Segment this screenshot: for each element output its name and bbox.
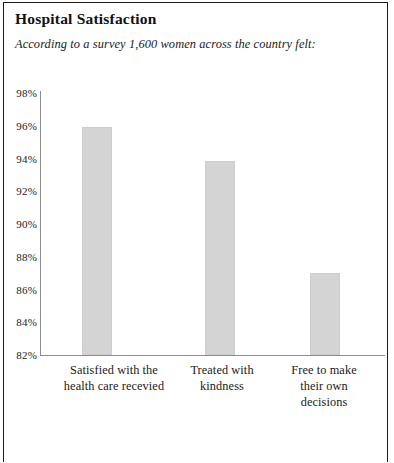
y-axis-tick-label: 94%	[7, 153, 37, 165]
y-axis-tick-label: 98%	[7, 87, 37, 99]
y-axis-tick-label: 82%	[7, 349, 37, 361]
category-label-line: decisions	[269, 394, 379, 410]
y-axis-tick-label: 84%	[7, 316, 37, 328]
x-axis-line	[40, 355, 385, 356]
y-axis-tick-labels: 98%96%94%92%90%88%86%84%82%	[4, 3, 37, 463]
x-axis-category-label: Free to maketheir owndecisions	[269, 362, 379, 411]
y-axis-tick-label: 92%	[7, 185, 37, 197]
category-label-line: kindness	[162, 378, 282, 394]
category-label-line: Treated with	[162, 362, 282, 378]
category-label-line: Free to make	[269, 362, 379, 378]
bar	[205, 161, 235, 355]
y-axis-tick-label: 88%	[7, 251, 37, 263]
category-label-line: their own	[269, 378, 379, 394]
chart-card: Hospital Satisfaction According to a sur…	[3, 2, 388, 462]
y-axis-tick-label: 90%	[7, 218, 37, 230]
bar	[310, 273, 340, 355]
y-axis-tick-label: 96%	[7, 120, 37, 132]
y-axis-line	[40, 91, 41, 355]
bar-chart-plot: 98%96%94%92%90%88%86%84%82% Satisfied wi…	[4, 3, 389, 463]
y-axis-tick-label: 86%	[7, 284, 37, 296]
x-axis-category-label: Treated withkindness	[162, 362, 282, 394]
bar	[82, 127, 112, 355]
